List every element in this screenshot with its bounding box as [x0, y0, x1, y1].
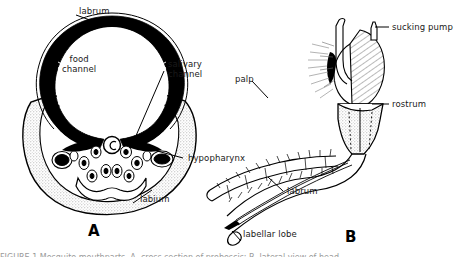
label-labrum-b: labrum [287, 186, 318, 196]
label-palp: palp [235, 74, 254, 84]
labium-shaft-upper [227, 154, 352, 216]
pharynx-tube-cap [339, 19, 345, 21]
label-rostrum: rostrum [392, 99, 426, 109]
sucking-pump [350, 30, 384, 104]
trachea-right [154, 154, 170, 164]
palp-tip [207, 190, 212, 201]
leader-palp [252, 81, 268, 98]
panel-a-drawing [23, 13, 196, 215]
label-labellar-lobe: labellar lobe [243, 229, 297, 239]
label-salivary-channel-line1: salivary [168, 59, 202, 69]
label-labrum-a: labrum [79, 6, 110, 16]
panel-b-drawing [207, 19, 389, 246]
anatomy-illustration [0, 0, 462, 257]
label-hypopharynx: hypopharynx [188, 153, 245, 163]
label-food-channel: foodchannel [62, 54, 96, 74]
figure-page: labrum foodchannel salivarychannel hypop… [0, 0, 462, 257]
trachea-left [55, 155, 69, 166]
panel-letter-a: A [88, 222, 100, 240]
label-salivary-channel-line2: channel [168, 69, 202, 79]
label-sucking-pump: sucking pump [392, 22, 453, 32]
label-food-channel-line2: channel [62, 64, 96, 74]
pump-dorsal-process [371, 22, 377, 40]
label-labium: labium [140, 194, 170, 204]
food-channel-lumen [56, 27, 168, 139]
label-food-channel-line1: food [70, 54, 89, 64]
panel-letter-b: B [345, 228, 356, 246]
label-salivary-channel: salivarychannel [168, 59, 202, 79]
hypopharynx-circle [104, 137, 121, 154]
figure-caption-cropped: FIGURE 1 Mosquito mouthparts. A, cross s… [0, 253, 462, 257]
